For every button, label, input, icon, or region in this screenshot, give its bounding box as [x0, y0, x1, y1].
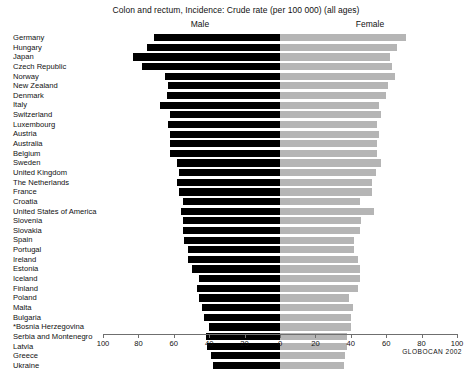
country-label: Luxembourg [0, 120, 100, 130]
country-label: Hungary [0, 43, 100, 53]
female-bar [280, 227, 360, 234]
bar-row [103, 361, 457, 370]
female-bar [280, 265, 360, 272]
bar-row [103, 293, 457, 303]
country-label: Serbia and Montenegro [0, 332, 100, 342]
country-label: The Netherlands [0, 178, 100, 188]
country-label: Spain [0, 235, 100, 245]
female-bar [280, 140, 377, 147]
male-bar [183, 217, 280, 224]
axis-tick [103, 334, 104, 338]
axis-tick [422, 334, 423, 338]
bar-rows [103, 33, 457, 370]
female-bar [280, 159, 381, 166]
axis-tick-label: 40 [194, 339, 224, 348]
bar-row [103, 62, 457, 72]
country-label: Estonia [0, 264, 100, 274]
axis-tick-label: 80 [123, 339, 153, 348]
axis-tick-label: 40 [336, 339, 366, 348]
country-label: Czech Republic [0, 62, 100, 72]
bar-row [103, 322, 457, 332]
country-label: Ireland [0, 255, 100, 265]
female-panel-label: Female [320, 19, 420, 29]
bar-row [103, 245, 457, 255]
country-label: Greece [0, 351, 100, 361]
bar-row [103, 110, 457, 120]
axis-tick [351, 334, 352, 338]
female-bar [280, 323, 351, 330]
country-label: Finland [0, 284, 100, 294]
female-bar [280, 362, 344, 369]
male-bar [179, 188, 280, 195]
male-bar [188, 256, 280, 263]
male-bar [184, 237, 280, 244]
female-bar [280, 352, 345, 359]
bar-row [103, 129, 457, 139]
country-label: Latvia [0, 342, 100, 352]
male-bar [147, 44, 280, 51]
male-bar [170, 150, 280, 157]
bar-row [103, 100, 457, 110]
country-label-column: GermanyHungaryJapanCzech RepublicNorwayN… [0, 33, 100, 370]
country-label: *Bosnia Herzegovina [0, 322, 100, 332]
country-label: Switzerland [0, 110, 100, 120]
male-bar [133, 53, 280, 60]
male-bar [177, 159, 280, 166]
female-bar [280, 169, 376, 176]
bar-row [103, 33, 457, 43]
female-bar [280, 198, 360, 205]
country-label: Sweden [0, 158, 100, 168]
chart-title: Colon and rectum, Incidence: Crude rate … [0, 5, 472, 15]
axis-tick [280, 334, 281, 338]
country-label: United Kingdom [0, 168, 100, 178]
axis-tick [457, 334, 458, 338]
bar-row [103, 216, 457, 226]
bar-row [103, 43, 457, 53]
bar-row [103, 235, 457, 245]
country-label: Denmark [0, 91, 100, 101]
bar-row [103, 120, 457, 130]
female-bar [280, 208, 374, 215]
country-label: Bulgaria [0, 313, 100, 323]
female-bar [280, 121, 377, 128]
male-bar [192, 265, 281, 272]
female-bar [280, 63, 392, 70]
country-label: Belgium [0, 149, 100, 159]
female-bar [280, 111, 381, 118]
axis-tick-label: 100 [442, 339, 472, 348]
female-bar [280, 53, 390, 60]
axis-tick-label: 100 [88, 339, 118, 348]
female-bar [280, 237, 354, 244]
axis-tick [209, 334, 210, 338]
male-bar [183, 227, 280, 234]
male-bar [199, 275, 280, 282]
bar-row [103, 274, 457, 284]
bar-row [103, 207, 457, 217]
bar-row [103, 303, 457, 313]
bar-row [103, 226, 457, 236]
country-label: Portugal [0, 245, 100, 255]
male-bar [154, 34, 280, 41]
plot-area [103, 33, 457, 334]
female-bar [280, 102, 379, 109]
female-bar [280, 179, 372, 186]
male-bar [168, 82, 280, 89]
axis-tick-label: 80 [407, 339, 437, 348]
male-bar [177, 179, 280, 186]
country-label: New Zealand [0, 81, 100, 91]
axis-tick [315, 334, 316, 338]
axis-tick-label: 0 [265, 339, 295, 348]
female-bar [280, 131, 379, 138]
female-bar [280, 246, 354, 253]
axis-tick [245, 334, 246, 338]
male-bar [160, 102, 280, 109]
female-bar [280, 304, 353, 311]
bar-row [103, 197, 457, 207]
male-bar [209, 323, 280, 330]
male-bar [170, 140, 280, 147]
female-bar [280, 294, 349, 301]
bar-row [103, 91, 457, 101]
country-label: Malta [0, 303, 100, 313]
male-bar [213, 362, 280, 369]
